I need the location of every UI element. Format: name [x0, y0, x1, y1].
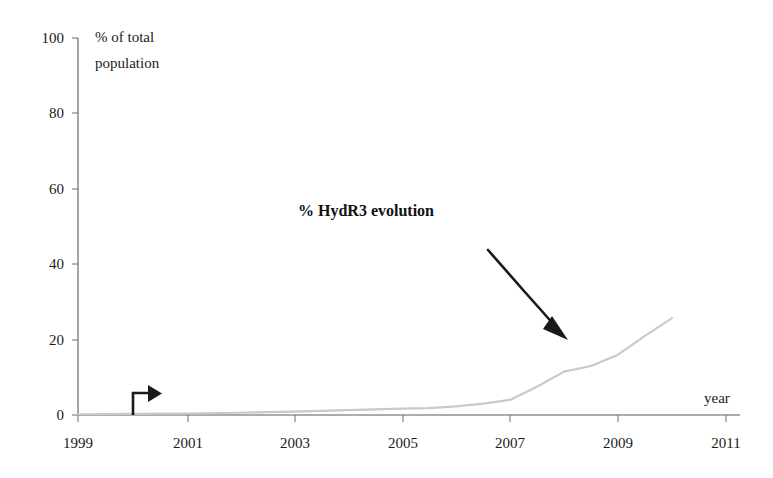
- x-tick-label-2005: 2005: [388, 435, 418, 451]
- series-line-hydr3-evolution: [78, 318, 672, 414]
- y-tick-label-20: 20: [49, 332, 64, 348]
- series-callout-arrow-icon: [488, 250, 568, 340]
- x-axis-title: year: [704, 390, 730, 406]
- y-axis-title-line1: % of total: [95, 29, 154, 45]
- series-callout-label: % HydR3 evolution: [298, 202, 434, 220]
- x-tick-label-2009: 2009: [603, 435, 633, 451]
- x-tick-label-1999: 1999: [63, 435, 93, 451]
- x-tick-label-2003: 2003: [280, 435, 310, 451]
- x-tick-label-2007: 2007: [495, 435, 526, 451]
- y-tick-label-100: 100: [42, 30, 65, 46]
- x-axis-ticks: [78, 415, 726, 422]
- chart-page: 100 80 60 40 20 0 1999 2001 2003 2005 20…: [0, 0, 773, 478]
- x-tick-label-2001: 2001: [173, 435, 203, 451]
- origin-pointer-icon: [133, 385, 162, 415]
- y-tick-label-0: 0: [57, 407, 65, 423]
- y-tick-label-40: 40: [49, 256, 64, 272]
- x-tick-label-2011: 2011: [711, 435, 740, 451]
- y-axis-ticks: [72, 38, 78, 415]
- hydr3-evolution-line-chart: 100 80 60 40 20 0 1999 2001 2003 2005 20…: [0, 0, 773, 478]
- y-tick-label-80: 80: [49, 105, 64, 121]
- y-axis-title-line2: population: [95, 55, 160, 71]
- y-tick-label-60: 60: [49, 181, 64, 197]
